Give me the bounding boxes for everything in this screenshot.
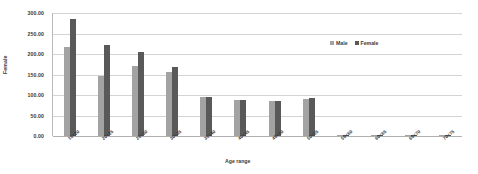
- bar-group: [223, 13, 257, 136]
- bar-female: [138, 52, 144, 136]
- legend-label-female: Female: [361, 40, 379, 46]
- bar-group: [257, 13, 291, 136]
- y-axis-tick-label: 300.00: [28, 10, 44, 16]
- legend-swatch-female-icon: [355, 41, 359, 45]
- bar-group: [121, 13, 155, 136]
- bar-group: [360, 13, 394, 136]
- bar-female: [70, 19, 76, 136]
- legend-item-male: Male: [330, 40, 348, 46]
- bar-group: [53, 13, 87, 136]
- bar-group: [292, 13, 326, 136]
- chart-legend: Male Female: [330, 40, 378, 46]
- y-axis-tick-label: 200.00: [28, 51, 44, 57]
- y-axis-tick-label: 150.00: [28, 72, 44, 78]
- bar-group: [326, 13, 360, 136]
- x-axis-title: Age range: [225, 158, 250, 164]
- bar-group: [87, 13, 121, 136]
- bar-group: [428, 13, 462, 136]
- bar-group: [189, 13, 223, 136]
- y-axis-tick-label: 100.00: [28, 92, 44, 98]
- x-axis-labels: 15<2020<2525<3030<3535<4040<4545<5050<55…: [52, 137, 462, 167]
- bar-chart: Female 0.0050.00100.00150.00200.00250.00…: [0, 0, 478, 174]
- legend-swatch-male-icon: [330, 41, 334, 45]
- y-axis-tick-label: 0.00: [34, 133, 45, 139]
- y-axis-tick-label: 50.00: [31, 113, 44, 119]
- plot-area: [52, 13, 462, 136]
- bar-female: [104, 45, 110, 136]
- y-axis-tick-label: 250.00: [28, 31, 44, 37]
- bar-group: [155, 13, 189, 136]
- legend-label-male: Male: [336, 40, 348, 46]
- bar-female: [172, 67, 178, 136]
- bar-groups: [53, 13, 462, 136]
- bar-group: [394, 13, 428, 136]
- legend-item-female: Female: [355, 40, 379, 46]
- y-axis-labels: 0.0050.00100.00150.00200.00250.00300.00: [0, 13, 48, 136]
